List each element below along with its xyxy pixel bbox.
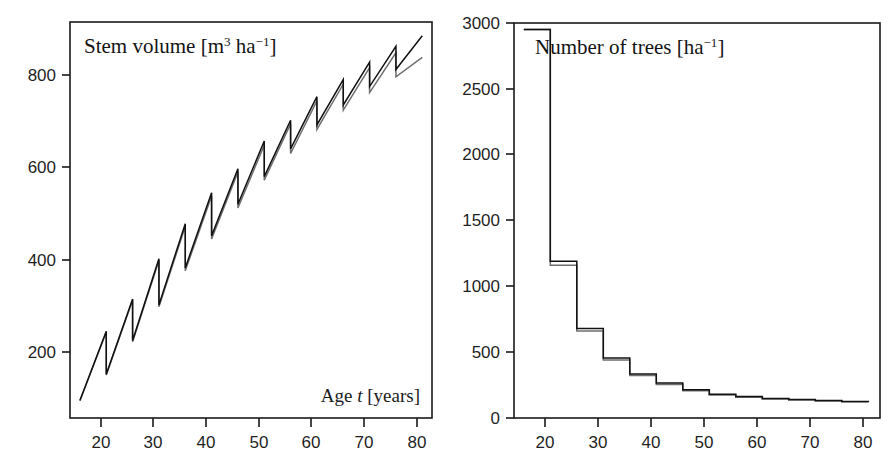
x-axis-ticks [545,418,863,427]
chart-title-number-of-trees: Number of trees [ha−1] [535,35,724,59]
x-tick-label-30: 30 [589,433,608,452]
number-of-trees-plot: 3000 2500 2000 1500 1000 500 0 20 30 40 … [445,0,895,474]
x-tick-label-50: 50 [695,433,714,452]
y-tick-label-500: 500 [472,343,500,362]
chart-title-text: Stem volume [84,34,195,58]
y-tick-label-0: 0 [491,409,500,428]
unit-ha: ha [684,35,705,59]
unit-ha-exponent: −1 [704,35,718,50]
y-tick-label-3000: 3000 [462,14,500,33]
unit-ha-exponent: −1 [256,34,270,49]
y-axis-ticks [506,23,514,418]
x-axis-ticks [101,418,417,427]
x-axis-label-age: Age t [years] [321,385,420,406]
y-tick-label-200: 200 [28,343,56,362]
chart-panel-number-of-trees: 3000 2500 2000 1500 1000 500 0 20 30 40 … [445,0,895,474]
chart-panel-stem-volume: 800 600 400 200 20 30 40 50 60 70 80 [0,0,450,474]
unit-m: m [208,34,224,58]
x-tick-label-60: 60 [748,433,767,452]
y-tick-label-1500: 1500 [462,211,500,230]
x-tick-label-70: 70 [801,433,820,452]
x-axis-label-post: [years] [363,385,421,406]
chart-title-stem-volume: Stem volume [m3 ha−1] [84,34,276,58]
x-tick-label-30: 30 [144,433,163,452]
unit-ha: ha [236,34,257,58]
x-tick-label-80: 80 [854,433,873,452]
y-tick-label-2000: 2000 [462,145,500,164]
chart-title-text: Number of trees [535,35,671,59]
plot-frame [514,23,880,418]
stem-volume-plot: 800 600 400 200 20 30 40 50 60 70 80 [0,0,450,474]
y-tick-label-400: 400 [28,251,56,270]
x-axis-label-pre: Age [321,385,357,406]
y-axis-ticks [62,75,70,352]
y-tick-label-1000: 1000 [462,277,500,296]
x-tick-label-70: 70 [355,433,374,452]
figure-container: 800 600 400 200 20 30 40 50 60 70 80 [0,0,895,474]
x-tick-label-20: 20 [536,433,555,452]
x-tick-label-40: 40 [642,433,661,452]
x-tick-label-20: 20 [92,433,111,452]
y-tick-label-600: 600 [28,158,56,177]
x-tick-label-40: 40 [197,433,216,452]
y-tick-label-800: 800 [28,66,56,85]
x-tick-label-80: 80 [408,433,427,452]
x-tick-label-60: 60 [302,433,321,452]
y-tick-label-2500: 2500 [462,80,500,99]
x-tick-label-50: 50 [250,433,269,452]
